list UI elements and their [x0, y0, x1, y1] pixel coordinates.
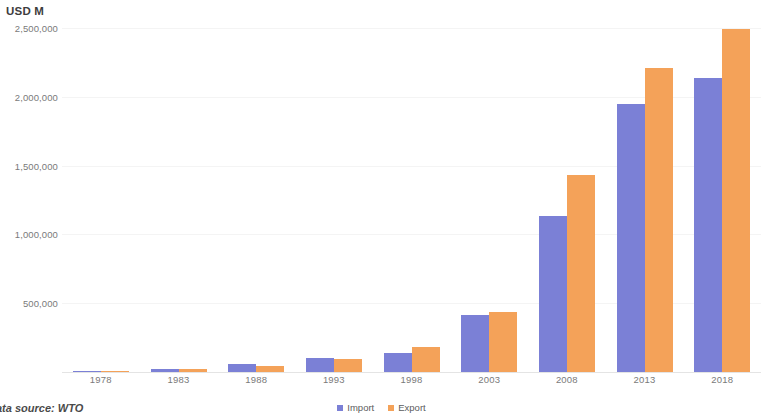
bar-export-1978[interactable]: [101, 371, 129, 372]
legend-swatch-icon: [337, 405, 343, 411]
chart-legend: ImportExport: [0, 402, 763, 413]
bar-import-1978[interactable]: [73, 371, 101, 373]
x-axis-tick: 2013: [606, 374, 684, 392]
x-axis-tick: 2008: [528, 374, 606, 392]
bar-group: [606, 28, 684, 372]
bar-chart: USD M 500,0001,000,0001,500,0002,000,000…: [0, 0, 763, 417]
bar-group: [217, 28, 295, 372]
bar-export-1993[interactable]: [334, 359, 362, 372]
x-axis-tick: 1988: [217, 374, 295, 392]
bar-import-1983[interactable]: [151, 369, 179, 372]
bar-group: [295, 28, 373, 372]
x-axis-tick: 2003: [450, 374, 528, 392]
bar-group: [62, 28, 140, 372]
bar-group: [683, 28, 761, 372]
bar-import-1993[interactable]: [306, 358, 334, 372]
bar-import-2008[interactable]: [539, 216, 567, 372]
x-axis-tick: 1983: [140, 374, 218, 392]
legend-item-import[interactable]: Import: [337, 402, 374, 413]
bar-export-1988[interactable]: [256, 366, 284, 372]
legend-label: Export: [398, 402, 425, 413]
y-axis-tick: 500,000: [2, 298, 58, 309]
bar-export-2018[interactable]: [722, 29, 750, 372]
bar-export-1998[interactable]: [412, 347, 440, 372]
bar-import-2013[interactable]: [617, 104, 645, 372]
bar-export-2003[interactable]: [489, 312, 517, 372]
y-axis-tick: 2,500,000: [2, 23, 58, 34]
bar-group: [528, 28, 606, 372]
x-axis-tick-labels: 197819831988199319982003200820132018: [62, 374, 761, 392]
bar-group: [140, 28, 218, 372]
x-axis-tick: 1978: [62, 374, 140, 392]
legend-swatch-icon: [388, 405, 394, 411]
bar-export-2013[interactable]: [645, 68, 673, 372]
bar-export-1983[interactable]: [179, 369, 207, 372]
x-axis-tick: 1993: [295, 374, 373, 392]
gridline: [62, 372, 761, 373]
bar-group: [450, 28, 528, 372]
y-axis-tick: 1,500,000: [2, 160, 58, 171]
y-axis-title: USD M: [6, 5, 44, 17]
bar-group: [373, 28, 451, 372]
bar-import-1988[interactable]: [228, 364, 256, 372]
bar-groups: [62, 28, 761, 372]
y-axis-tick: 2,000,000: [2, 91, 58, 102]
y-axis-tick: 1,000,000: [2, 229, 58, 240]
legend-item-export[interactable]: Export: [388, 402, 425, 413]
bar-import-2003[interactable]: [461, 315, 489, 372]
y-axis-tick-labels: 500,0001,000,0001,500,0002,000,0002,500,…: [0, 28, 58, 372]
bar-import-2018[interactable]: [694, 78, 722, 372]
legend-label: Import: [347, 402, 374, 413]
bar-export-2008[interactable]: [567, 175, 595, 372]
x-axis-tick: 2018: [683, 374, 761, 392]
x-axis-tick: 1998: [373, 374, 451, 392]
bar-import-1998[interactable]: [384, 353, 412, 372]
